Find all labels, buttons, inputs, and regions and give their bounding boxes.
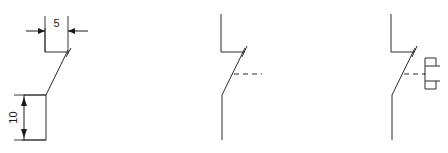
dimension-arrow-left-icon (38, 28, 45, 34)
drawing-svg: 5 10 (0, 0, 448, 153)
dimension-label-horizontal: 5 (53, 17, 59, 29)
actuator-bracket (424, 58, 436, 89)
diagonal-offset-segment (46, 50, 68, 95)
dimension-arrow-top-icon (21, 97, 27, 106)
figure-offset-bend-dimensioned: 5 10 (7, 16, 88, 140)
dimension-arrow-bottom-icon (21, 129, 27, 138)
dimension-arrow-right-icon (68, 28, 75, 34)
technical-drawing-canvas: 5 10 (0, 0, 448, 153)
figure-switch-with-actuator (391, 14, 440, 140)
dimension-label-vertical: 10 (7, 111, 19, 123)
figure-switch-symbol (221, 14, 262, 140)
movable-contact-blade (392, 48, 415, 95)
movable-contact-blade (222, 48, 245, 95)
